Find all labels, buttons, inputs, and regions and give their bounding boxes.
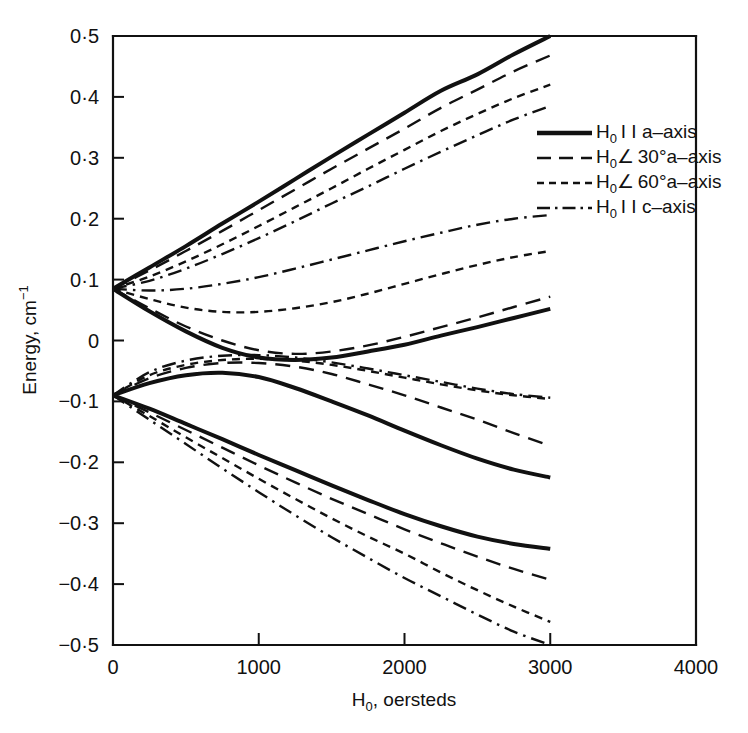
x-axis-ticks [259,633,551,645]
y-axis-tick-labels: 0·50·40·30·20·10−0·1−0·2−0·3−0·4−0·5 [58,25,99,656]
curve-d60-upper-1 [113,85,550,289]
y-tick-label: 0·2 [70,208,99,230]
curve-a-lower-1 [113,373,550,478]
y-tick-label: −0·5 [58,634,99,656]
y-tick-label: −0·1 [58,390,99,412]
x-tick-label: 2000 [382,656,427,678]
x-tick-label: 4000 [674,656,719,678]
y-tick-label: −0·2 [58,451,99,473]
curve-a-lower-2 [113,395,550,548]
y-tick-label: 0·5 [70,25,99,47]
legend-label: H0∠ 30°a–axis [596,146,721,171]
y-tick-label: 0·4 [70,86,99,108]
curve-c-upper-2 [113,215,550,291]
chart-legend: H0 I I a–axisH0∠ 30°a–axisH0∠ 60°a–axisH… [537,121,721,221]
y-tick-label: −0·3 [58,512,99,534]
y-tick-label: 0 [88,330,99,352]
x-axis-tick-labels: 01000200030004000 [107,656,718,678]
curve-group [113,36,550,645]
legend-label: H0 I I a–axis [596,121,697,146]
y-axis-ticks [113,36,124,645]
x-tick-label: 0 [107,656,118,678]
curve-a-upper-1 [113,36,550,289]
chart-canvas: 0·50·40·30·20·10−0·1−0·2−0·3−0·4−0·5 010… [0,0,748,733]
y-tick-label: 0·1 [70,269,99,291]
curve-d30-upper-2 [113,289,550,354]
zeeman-energy-level-chart: 0·50·40·30·20·10−0·1−0·2−0·3−0·4−0·5 010… [0,0,748,733]
curve-d30-upper-1 [113,55,550,288]
curve-c-upper-1 [113,106,550,289]
curve-d60-lower-2 [113,395,550,622]
x-tick-label: 3000 [528,656,573,678]
y-tick-label: −0·4 [58,573,99,595]
curve-d60-lower-1 [113,359,550,399]
legend-label: H0 I I c–axis [596,196,696,221]
y-tick-label: 0·3 [70,147,99,169]
legend-label: H0∠ 60°a–axis [596,171,721,196]
x-axis-title: H0, oersteds [352,689,456,714]
y-axis-title: Energy, cm−1 [16,285,40,395]
x-tick-label: 1000 [237,656,282,678]
